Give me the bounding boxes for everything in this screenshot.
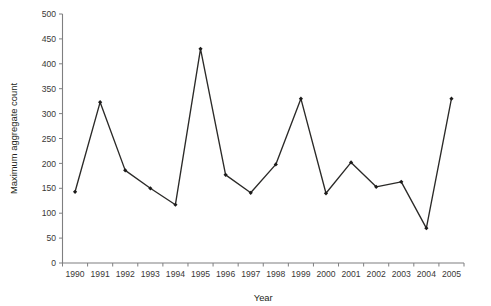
x-tick-label-1999: 1999 [291,269,310,279]
data-point-1991 [98,100,102,104]
x-tick-label-1994: 1994 [166,269,185,279]
x-tick-label-1990: 1990 [65,269,84,279]
x-tick-label-1991: 1991 [91,269,110,279]
x-tick-label-1993: 1993 [141,269,160,279]
y-tick-label-450: 450 [42,34,57,44]
x-tick-label-1996: 1996 [216,269,235,279]
x-tick-label-1997: 1997 [241,269,260,279]
x-tick-label-2002: 2002 [367,269,386,279]
y-tick-label-250: 250 [42,134,57,144]
line-chart: 0501001502002503003504004505001990199119… [0,0,491,306]
y-tick-label-100: 100 [42,208,57,218]
y-tick-label-400: 400 [42,59,57,69]
x-tick-label-1992: 1992 [116,269,135,279]
y-tick-label-50: 50 [46,233,56,243]
data-point-1999 [299,97,303,101]
data-series-line [75,49,451,228]
data-point-2005 [449,97,453,101]
y-tick-label-150: 150 [42,183,57,193]
chart-canvas: 0501001502002503003504004505001990199119… [0,0,491,306]
y-tick-label-500: 500 [42,9,57,19]
data-point-1990 [73,190,77,194]
y-axis-title: Maximum aggregate count [8,83,19,194]
y-tick-label-350: 350 [42,84,57,94]
x-tick-label-2000: 2000 [316,269,335,279]
x-tick-label-1998: 1998 [266,269,285,279]
x-tick-label-2003: 2003 [392,269,411,279]
x-tick-label-2004: 2004 [417,269,436,279]
x-axis-title: Year [254,292,273,303]
x-tick-label-2001: 2001 [342,269,361,279]
y-tick-label-300: 300 [42,109,57,119]
x-tick-label-1995: 1995 [191,269,210,279]
data-point-1995 [198,47,202,51]
y-tick-label-200: 200 [42,159,57,169]
x-tick-label-2005: 2005 [442,269,461,279]
y-tick-label-0: 0 [51,258,56,268]
